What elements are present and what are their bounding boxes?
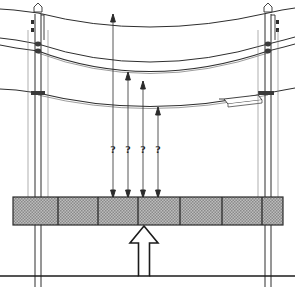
dim-label-2: ?	[125, 144, 131, 155]
dim-label-4: ?	[155, 144, 161, 155]
pole-cap-left	[34, 3, 42, 12]
dim-line-1	[111, 14, 116, 198]
ground-callout-arrow	[130, 226, 158, 276]
line-clearance-drawing	[0, 0, 295, 287]
dim-line-2	[126, 72, 131, 198]
dim-line-3	[141, 81, 146, 198]
line-mounted-box	[219, 95, 262, 107]
diagram-canvas: ? ? ? ?	[0, 0, 295, 287]
dim-label-3: ?	[140, 144, 146, 155]
dim-label-1: ?	[110, 144, 116, 155]
pole-reference-lines	[28, 30, 278, 198]
ground-strip	[13, 197, 283, 225]
pole-cap-right	[264, 3, 272, 12]
